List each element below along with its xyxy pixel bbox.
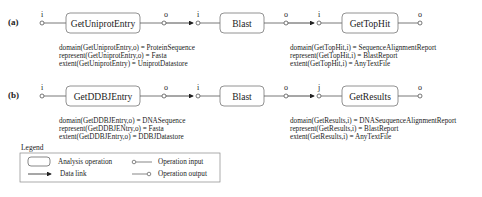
output-port [418, 21, 422, 25]
input-port [317, 94, 321, 98]
legend-label: Data link [60, 170, 87, 178]
annotation-left: domain(GetDDBJEntry,o) = DNASequence rep… [59, 117, 185, 141]
annotation-line: domain(GetUniprotEntry,o) = ProteinSeque… [59, 44, 195, 52]
port-label: o [164, 83, 168, 92]
legend-output-icon [147, 172, 151, 176]
annotation-right: domain(GetResults,i) = DNASeuquenceAlign… [290, 117, 456, 141]
annotation-line: represent(GetUniprotEntry,o) = Fasta [59, 52, 167, 60]
legend-operation-icon [28, 157, 50, 166]
port-label: j [317, 83, 320, 92]
legend-label: Operation output [158, 170, 207, 178]
port-label: i [41, 10, 44, 19]
input-port [196, 21, 200, 25]
port-label: i [41, 83, 44, 92]
annotation-line: represent(GetDDBJENtry,o) = Fasta [59, 125, 165, 133]
operation-label: Blast [232, 92, 252, 102]
annotation-line: extent(GetResults,i) = AnyTextFile [290, 133, 391, 141]
port-label: o [418, 10, 422, 19]
annotation-line: extent(GetTopHit,i) = AnyTextFile [290, 60, 390, 68]
port-label: o [284, 10, 288, 19]
port-label: o [418, 83, 422, 92]
operation-label: GetResults [349, 92, 391, 102]
output-port [418, 94, 422, 98]
workflow-label: (a) [8, 17, 19, 27]
legend-label: Analysis operation [58, 158, 113, 166]
annotation-line: domain(GetTopHit,i) = SequenceAlignmentR… [290, 44, 436, 52]
legend-label: Operation input [158, 158, 203, 166]
annotation-line: represent(GetResults,i) = BlastReport [290, 125, 398, 133]
port-label: i [197, 10, 200, 19]
port-label: o [164, 10, 168, 19]
input-port [40, 94, 44, 98]
output-port [284, 21, 288, 25]
workflow-a: (a) i GetUniprotEntry o i Blast o i GetT… [8, 10, 436, 68]
output-port [162, 21, 166, 25]
output-port [162, 94, 166, 98]
annotation-line: extent(GetUniprotEntry) = UniprotDatasto… [59, 60, 188, 68]
workflow-label: (b) [8, 90, 19, 100]
output-port [284, 94, 288, 98]
input-port [40, 21, 44, 25]
legend-title: Legend [21, 143, 44, 152]
port-label: i [318, 10, 321, 19]
annotation-left: domain(GetUniprotEntry,o) = ProteinSeque… [59, 44, 195, 68]
legend-input-icon [132, 160, 136, 164]
port-label: i [197, 83, 200, 92]
annotation-right: domain(GetTopHit,i) = SequenceAlignmentR… [290, 44, 436, 68]
annotation-line: represent(GetTopHit,i) = BlastReport [290, 52, 398, 60]
annotation-line: extent(GetDDBJEntry,o) = DDBJDatastore [59, 133, 184, 141]
legend: Legend Analysis operation Data link Oper… [20, 143, 220, 182]
port-label: o [284, 83, 288, 92]
operation-label: GetDDBJEntry [74, 92, 133, 102]
workflow-diagram: (a) i GetUniprotEntry o i Blast o i GetT… [0, 0, 482, 197]
operation-label: GetUniprotEntry [71, 19, 136, 29]
input-port [317, 21, 321, 25]
annotation-line: domain(GetResults,i) = DNASeuquenceAlign… [290, 117, 456, 125]
annotation-line: domain(GetDDBJEntry,o) = DNASequence [59, 117, 185, 125]
workflow-b: (b) i GetDDBJEntry o i Blast o j GetResu… [8, 83, 456, 141]
operation-label: Blast [232, 19, 252, 29]
operation-label: GetTopHit [350, 19, 391, 29]
input-port [196, 94, 200, 98]
